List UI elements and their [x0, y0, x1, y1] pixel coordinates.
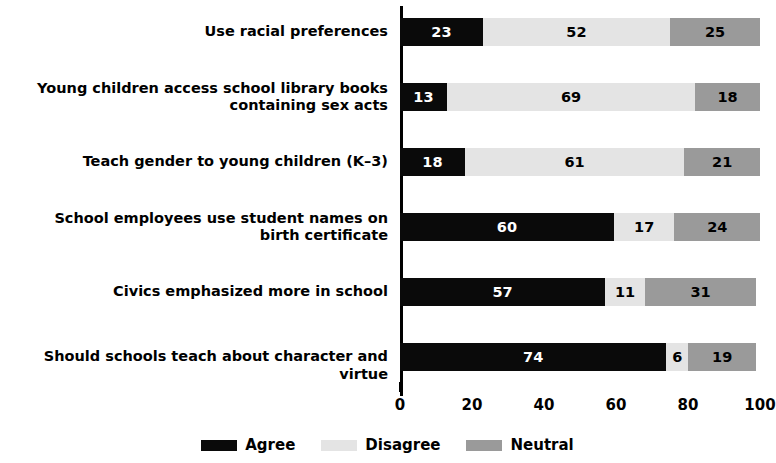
legend-swatch-disagree: [321, 440, 357, 451]
category-label-line: Use racial preferences: [0, 23, 388, 40]
legend-item[interactable]: Agree: [201, 438, 295, 453]
bar-row: 571131: [400, 278, 760, 306]
bar-value-label: 60: [497, 220, 517, 235]
category-label-line: birth certificate: [0, 227, 388, 244]
legend-label: Disagree: [365, 438, 440, 453]
category-label-line: Teach gender to young children (K–3): [0, 153, 388, 170]
bar-segment-neutral: 19: [688, 343, 756, 371]
category-label: School employees use student names onbir…: [0, 210, 388, 245]
bar-value-label: 18: [717, 90, 737, 105]
x-axis-tick-label: 40: [534, 396, 555, 414]
bar-segment-agree: 57: [400, 278, 605, 306]
category-label: Young children access school library boo…: [0, 80, 388, 115]
bar-segment-neutral: 21: [684, 148, 760, 176]
bar-segment-agree: 13: [400, 83, 447, 111]
x-axis-tick-label: 100: [744, 396, 775, 414]
bar-row: 74619: [400, 343, 760, 371]
bar-value-label: 18: [422, 155, 442, 170]
chart-legend: AgreeDisagreeNeutral: [0, 438, 775, 453]
bar-segment-agree: 60: [400, 213, 614, 241]
bar-segment-agree: 23: [400, 18, 483, 46]
bar-row: 235225: [400, 18, 760, 46]
bar-value-label: 57: [493, 285, 513, 300]
x-axis-tick-label: 0: [395, 396, 405, 414]
bar-segment-neutral: 25: [670, 18, 760, 46]
bar-value-label: 17: [634, 220, 654, 235]
bar-segment-disagree: 6: [666, 343, 688, 371]
bar-value-label: 23: [431, 25, 451, 40]
category-label-line: School employees use student names on: [0, 210, 388, 227]
bar-segment-disagree: 61: [465, 148, 685, 176]
bar-value-label: 52: [566, 25, 586, 40]
bar-segment-neutral: 18: [695, 83, 760, 111]
category-label: Teach gender to young children (K–3): [0, 153, 388, 170]
bar-value-label: 19: [712, 350, 732, 365]
bar-value-label: 13: [413, 90, 433, 105]
bar-value-label: 24: [707, 220, 727, 235]
bar-value-label: 61: [565, 155, 585, 170]
bar-value-label: 74: [523, 350, 543, 365]
bar-segment-agree: 74: [400, 343, 666, 371]
bar-row: 601724: [400, 213, 760, 241]
x-axis-tick-label: 60: [606, 396, 627, 414]
legend-swatch-agree: [201, 440, 237, 451]
bar-segment-agree: 18: [400, 148, 465, 176]
category-label-line: Civics emphasized more in school: [0, 283, 388, 300]
legend-label: Agree: [245, 438, 295, 453]
category-label: Should schools teach about character and…: [0, 348, 388, 383]
bar-value-label: 31: [690, 285, 710, 300]
legend-label: Neutral: [510, 438, 573, 453]
bar-segment-disagree: 17: [614, 213, 675, 241]
bar-segment-disagree: 69: [447, 83, 695, 111]
category-label-line: containing sex acts: [0, 97, 388, 114]
bar-value-label: 69: [561, 90, 581, 105]
category-label: Use racial preferences: [0, 23, 388, 40]
legend-item[interactable]: Neutral: [466, 438, 573, 453]
category-label: Civics emphasized more in school: [0, 283, 388, 300]
category-label-line: Should schools teach about character and…: [0, 348, 388, 383]
bar-segment-neutral: 31: [645, 278, 757, 306]
x-axis-tick-label: 80: [678, 396, 699, 414]
bar-segment-disagree: 11: [605, 278, 645, 306]
legend-swatch-neutral: [466, 440, 502, 451]
bar-value-label: 11: [615, 285, 635, 300]
x-axis-tick-label: 20: [462, 396, 483, 414]
legend-item[interactable]: Disagree: [321, 438, 440, 453]
bar-value-label: 21: [712, 155, 732, 170]
bar-value-label: 6: [672, 350, 682, 365]
category-label-line: Young children access school library boo…: [0, 80, 388, 97]
bar-segment-neutral: 24: [674, 213, 760, 241]
bar-row: 186121: [400, 148, 760, 176]
x-axis-tick-mark: [399, 382, 402, 392]
bar-row: 136918: [400, 83, 760, 111]
y-axis-line: [400, 6, 403, 396]
bar-value-label: 25: [705, 25, 725, 40]
bar-segment-disagree: 52: [483, 18, 670, 46]
